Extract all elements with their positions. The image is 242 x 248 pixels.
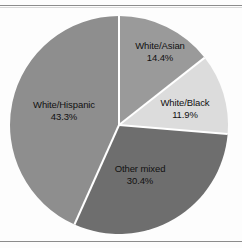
pie-chart-figure: White/Asian 14.4% White/Black 11.9% Othe… xyxy=(0,0,242,248)
figure-bottom-rule xyxy=(0,241,242,242)
pie-chart-graphic xyxy=(0,0,242,248)
